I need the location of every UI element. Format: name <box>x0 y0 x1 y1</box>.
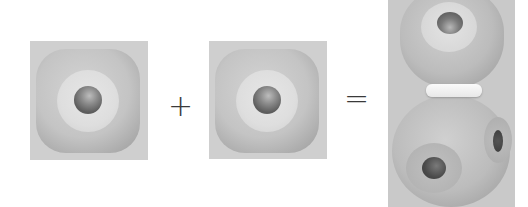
cube-piece-image-right <box>209 41 327 159</box>
center-hole <box>253 86 281 114</box>
assembled-result-image <box>388 0 515 207</box>
front-hole <box>422 157 446 179</box>
center-hole <box>74 86 102 114</box>
plus-sign: + <box>168 91 193 121</box>
side-hole <box>493 130 503 152</box>
cube-piece-image-left <box>30 41 148 160</box>
equals-sign: = <box>344 84 369 114</box>
cube-body <box>215 49 319 153</box>
white-spacer-ring <box>426 84 482 97</box>
cube-body <box>36 49 140 153</box>
top-hole <box>437 12 463 34</box>
